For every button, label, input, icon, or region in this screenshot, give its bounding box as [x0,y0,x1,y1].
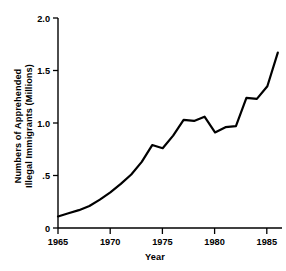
y-tick-label: 0 [45,224,50,234]
line-chart-plot: 2.0 1.5 1.0 .5 0 1965 1970 1975 1980 198… [0,0,286,271]
y-axis-ticks [53,18,58,228]
y-axis-title: Numbers of Apprehended Illegal Immigrant… [13,36,35,216]
x-tick-label: 1965 [48,237,68,247]
x-axis-ticks [58,228,267,234]
y-tick-label: 1.0 [37,119,50,129]
x-axis-tick-labels: 1965 1970 1975 1980 1985 [48,237,277,247]
y-axis-title-line2: Illegal Immigrants (Millions) [24,36,35,216]
y-axis-title-line1: Numbers of Apprehended [13,36,24,216]
x-tick-label: 1970 [100,237,120,247]
x-tick-label: 1980 [204,237,224,247]
x-tick-label: 1985 [257,237,277,247]
y-axis-tick-labels: 2.0 1.5 1.0 .5 0 [37,14,50,234]
data-series-line [58,53,278,217]
y-tick-label: 2.0 [37,14,50,24]
y-tick-label: .5 [42,171,50,181]
x-tick-label: 1975 [152,237,172,247]
x-axis-title: Year [105,252,205,262]
y-tick-label: 1.5 [37,66,50,76]
chart-figure: 2.0 1.5 1.0 .5 0 1965 1970 1975 1980 198… [0,0,286,271]
